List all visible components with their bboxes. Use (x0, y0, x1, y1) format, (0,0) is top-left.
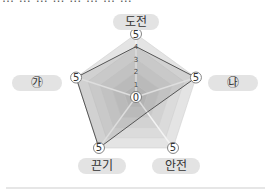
svg-text:3: 3 (134, 56, 138, 64)
svg-text:5: 5 (96, 142, 102, 153)
svg-text:4: 4 (134, 43, 139, 51)
svg-text:5: 5 (193, 72, 199, 83)
divider (6, 187, 265, 189)
svg-text:1: 1 (134, 81, 138, 89)
svg-text:5: 5 (133, 29, 139, 40)
svg-text:0: 0 (133, 92, 139, 103)
svg-text:5: 5 (170, 142, 176, 153)
axis-label-challenge: 도전 (113, 14, 159, 30)
axis-label-ga: ㉮ (12, 75, 62, 91)
svg-text:2: 2 (134, 68, 138, 76)
svg-text:5: 5 (73, 72, 79, 83)
axis-label-perseverance: 끈기 (78, 158, 126, 174)
axis-label-na: ㉯ (208, 75, 258, 91)
axis-label-safety: 안전 (152, 158, 200, 174)
